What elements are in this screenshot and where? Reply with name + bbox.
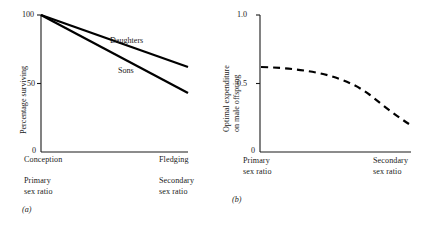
x-sublabel-primary-line1: Primary	[24, 176, 51, 186]
y-axis-title-line1: Optimal expenditure	[222, 65, 232, 132]
x-sublabel-primary-line2: sex ratio	[24, 187, 53, 197]
y-tick-label-100: 100	[22, 10, 34, 19]
y-tick-label-0: 0	[251, 146, 255, 155]
x-label-conception: Conception	[24, 155, 62, 165]
series-label-daughters: Daughters	[110, 36, 143, 45]
x-sublabel-primary-line2: sex ratio	[243, 167, 272, 177]
x-sublabel-secondary-line2: sex ratio	[159, 187, 188, 197]
y-axis-title-line2: on male offspring	[232, 75, 242, 132]
panel-id-a: (a)	[22, 205, 31, 214]
figure-container: 100 50 0 Percentage surviving Daughters …	[0, 0, 429, 228]
series-label-sons: Sons	[118, 66, 134, 75]
x-sublabel-primary-line1: Primary	[243, 156, 270, 166]
x-label-fledging: Fledging	[159, 155, 189, 165]
panel-b-plot	[215, 0, 429, 228]
panel-id-b: (b)	[232, 195, 241, 204]
panel-a: 100 50 0 Percentage surviving Daughters …	[0, 0, 215, 228]
y-axis-title: Percentage surviving	[19, 66, 29, 134]
series-curve-optimal-expenditure	[261, 67, 409, 124]
x-sublabel-secondary-line2: sex ratio	[373, 167, 402, 177]
panel-b: 1.0 0.5 0 Optimal expenditure on male of…	[215, 0, 429, 228]
y-tick-label-0: 0	[32, 146, 36, 155]
series-line-sons	[41, 15, 188, 93]
y-tick-label-1p0: 1.0	[237, 10, 247, 19]
x-sublabel-secondary-line1: Secondary	[373, 156, 408, 166]
x-sublabel-secondary-line1: Secondary	[159, 176, 194, 186]
